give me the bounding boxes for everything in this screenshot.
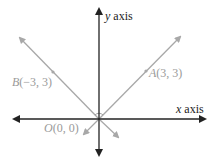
point-B-dot	[51, 70, 54, 73]
y-axis-word: axis	[110, 9, 132, 23]
y-axis-label: y axis	[105, 10, 133, 22]
point-A-dot	[144, 69, 147, 72]
point-O-label: O(0, 0)	[44, 122, 79, 134]
point-A-coords: (3, 3)	[156, 66, 182, 80]
x-axis-word: axis	[181, 102, 203, 116]
point-B-label: B(−3, 3)	[12, 76, 52, 88]
point-O-letter: O	[44, 121, 53, 135]
point-A-label: A(3, 3)	[149, 67, 182, 79]
point-B-coords: (−3, 3)	[19, 75, 52, 89]
point-O-coords: (0, 0)	[53, 121, 79, 135]
x-axis-label: x axis	[176, 103, 204, 115]
